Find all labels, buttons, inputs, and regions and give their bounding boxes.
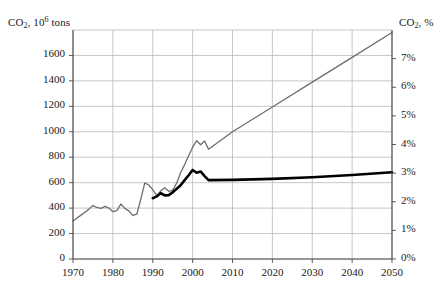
y-axis-left-tick-label: 0 — [21, 251, 65, 263]
y-axis-right-tick-label: 6% — [401, 79, 441, 91]
x-axis-tick-label: 2010 — [211, 266, 255, 278]
y-axis-right-tick-label: 2% — [401, 194, 441, 206]
co2-emissions-chart: CO2, 106 tons CO2, % 0200400600800100012… — [0, 0, 443, 288]
x-axis-tick-label: 1980 — [91, 266, 135, 278]
gridlines — [73, 30, 392, 259]
y-axis-left-tick-label: 200 — [21, 226, 65, 238]
x-axis-tick-label: 2040 — [330, 266, 374, 278]
y-axis-left-tick-label: 1400 — [21, 73, 65, 85]
x-axis-tick-label: 2000 — [171, 266, 215, 278]
x-axis-tick-label: 2020 — [250, 266, 294, 278]
y-axis-right-tick-label: 4% — [401, 137, 441, 149]
y-axis-left-tick-label: 1600 — [21, 47, 65, 59]
y-axis-left-tick-label: 400 — [21, 200, 65, 212]
x-axis-tick-label: 1990 — [131, 266, 175, 278]
y-axis-left-tick-label: 800 — [21, 149, 65, 161]
x-axis-tick-label: 1970 — [51, 266, 95, 278]
y-axis-right-tick-label: 0% — [401, 251, 441, 263]
x-axis-tick-label: 2050 — [370, 266, 414, 278]
y-axis-left-tick-label: 1000 — [21, 124, 65, 136]
y-axis-left-tick-label: 600 — [21, 175, 65, 187]
y-axis-right-tick-label: 5% — [401, 108, 441, 120]
y-axis-left-tick-label: 1200 — [21, 98, 65, 110]
y-axis-right-tick-label: 3% — [401, 165, 441, 177]
x-axis-tick-label: 2030 — [290, 266, 334, 278]
y-axis-right-tick-label: 1% — [401, 222, 441, 234]
plot-canvas — [0, 0, 443, 288]
y-axis-right-tick-label: 7% — [401, 51, 441, 63]
